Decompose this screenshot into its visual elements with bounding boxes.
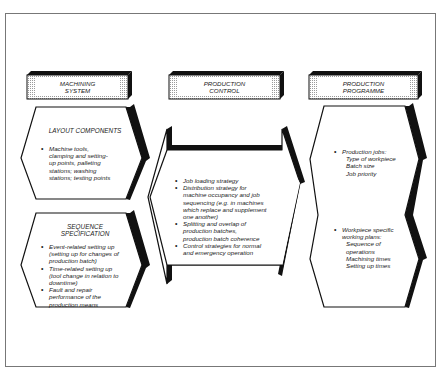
sub-item: Batch size (342, 162, 408, 169)
header-production-programme: PRODUCTION PROGRAMME (317, 80, 410, 94)
list-item: Event-related setting up (setting up for… (49, 243, 120, 265)
production-jobs-block: Production jobs: Type of workpiece Batch… (333, 148, 408, 177)
hexagon-production-programme (310, 103, 427, 308)
header-production-control: PRODUCTION CONTROL (178, 80, 271, 94)
title-line: SPECIFICATION (40, 230, 130, 237)
sequence-specification-title: SEQUENCE SPECIFICATION (40, 223, 130, 237)
header-line: PRODUCTION (317, 80, 410, 87)
header-line: PRODUCTION (178, 80, 271, 87)
list-item: Job loading strategy (183, 177, 267, 184)
sequence-specification-list: Event-related setting up (setting up for… (40, 243, 120, 308)
list-item: Machine tools, clamping and setting-up p… (49, 145, 112, 181)
list-item: Splitting and overlap of production batc… (183, 220, 267, 242)
production-control-list: Job loading strategy Distribution strate… (174, 177, 267, 256)
sub-item: Job priority (342, 170, 408, 177)
layout-components-list: Machine tools, clamping and setting-up p… (40, 145, 112, 181)
header-line: CONTROL (178, 87, 271, 94)
working-plans-block: Workpiece specific working plans: Sequen… (333, 226, 405, 269)
production-jobs-label: Production jobs: (342, 148, 386, 155)
header-line: MACHINING (35, 80, 120, 87)
sub-item: Setting up times (342, 262, 405, 269)
sub-item: Type of workpiece (342, 155, 408, 162)
header-line: SYSTEM (35, 87, 120, 94)
list-item: Time-related setting up (tool change in … (49, 265, 120, 287)
list-item: Production jobs: Type of workpiece Batch… (342, 148, 408, 177)
header-machining-system: MACHINING SYSTEM (35, 80, 120, 94)
layout-components-title: LAYOUT COMPONENTS (40, 127, 130, 134)
list-item: Fault and repair performance of the prod… (49, 286, 120, 308)
list-item: Distribution strategy for machine occupa… (183, 184, 267, 220)
list-item: Control strategies for normal and emerge… (183, 242, 267, 256)
sub-item: Machining times (342, 255, 405, 262)
list-item: Workpiece specific working plans: Sequen… (342, 226, 405, 269)
header-line: PROGRAMME (317, 87, 410, 94)
sub-item: Sequence of operations (342, 240, 405, 254)
title-line: SEQUENCE (40, 223, 130, 230)
working-plans-label: Workpiece specific working plans: (342, 226, 394, 240)
